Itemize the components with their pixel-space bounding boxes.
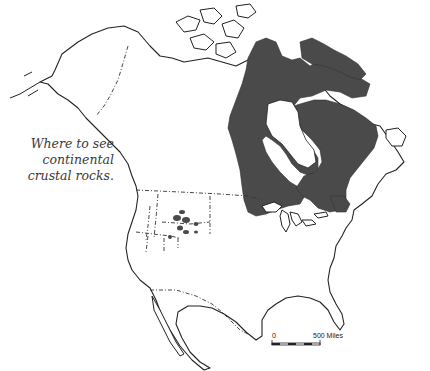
map-caption: Where to see continental crustal rocks. bbox=[2, 136, 114, 184]
caption-line-1: Where to see bbox=[2, 136, 114, 152]
scale-bar bbox=[272, 340, 320, 345]
caption-line-2: continental bbox=[2, 152, 114, 168]
caption-line-3: crustal rocks. bbox=[2, 168, 114, 184]
map-svg bbox=[0, 0, 430, 371]
alaska-peninsula bbox=[10, 72, 40, 98]
scale-start-label: 0 bbox=[272, 332, 276, 339]
scale-end-label: 500 Miles bbox=[313, 332, 343, 339]
north-america-map: Where to see continental crustal rocks. … bbox=[0, 0, 430, 371]
